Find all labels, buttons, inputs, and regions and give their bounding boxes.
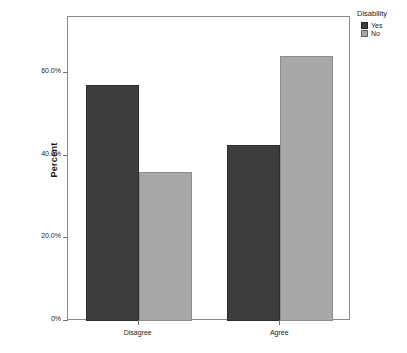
y-tick-mark — [63, 320, 68, 321]
legend-items: YesNo — [357, 22, 407, 37]
y-axis-title: Percent — [49, 100, 59, 220]
bar-agree-yes — [227, 145, 280, 321]
bar-agree-no — [280, 56, 333, 321]
plot-area — [67, 16, 350, 320]
legend-item-no: No — [357, 30, 407, 37]
legend-title: Disability — [357, 9, 407, 18]
x-tick-label: Agree — [234, 329, 324, 336]
bar-chart: Percent 0%20.0%40.0%60.0% DisagreeAgree … — [0, 0, 407, 353]
legend-swatch-icon — [361, 22, 368, 29]
legend: Disability YesNo — [357, 9, 407, 38]
x-tick-label: Disagree — [93, 329, 183, 336]
x-tick-mark — [279, 320, 280, 325]
legend-item-label: Yes — [371, 22, 382, 29]
bar-disagree-no — [139, 172, 192, 321]
legend-swatch-icon — [361, 30, 368, 37]
x-tick-mark — [138, 320, 139, 325]
y-tick-label: 20.0% — [17, 232, 61, 239]
bar-disagree-yes — [86, 85, 139, 321]
legend-item-yes: Yes — [357, 22, 407, 29]
legend-item-label: No — [371, 30, 380, 37]
y-tick-label: 60.0% — [17, 67, 61, 74]
y-tick-label: 40.0% — [17, 150, 61, 157]
y-tick-label: 0% — [17, 315, 61, 322]
